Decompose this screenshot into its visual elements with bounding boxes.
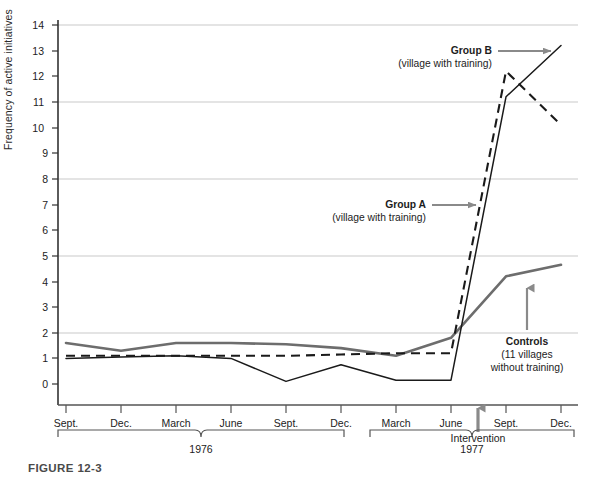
year-brace-1976 [58,430,344,437]
y-tick-label-11: 11 [22,96,44,108]
annotation-group-b-subtitle: (village with training) [398,58,492,69]
y-tick-label-3: 3 [26,301,48,313]
year-label-1976: 1976 [171,443,231,455]
x-tick-label-6: March [366,417,426,429]
x-tick-label-3: June [201,417,261,429]
annotation-controls-line1: (11 villages [501,349,552,360]
annotation-group-a-subtitle: (village with training) [332,212,426,223]
y-axis-title: Frequency of active initiatives [2,0,14,150]
chart-canvas [0,0,592,487]
y-tick-label-12: 12 [22,70,44,82]
gridlines [58,25,578,333]
x-tick-label-9: Dec. [531,417,591,429]
x-tick-marks [66,405,561,413]
annotation-group-a-title: Group A [385,199,426,210]
figure-container: Frequency of active initiatives 0 1 2 3 … [0,0,592,487]
x-tick-label-2: March [146,417,206,429]
annotation-group-a: Group A (village with training) [240,198,426,224]
y-tick-label-6: 6 [26,224,48,236]
y-tick-label-0: 0 [26,378,48,390]
annotation-group-b: Group B (village with training) [306,44,492,70]
y-tick-label-2: 2 [26,327,48,339]
figure-caption: FIGURE 12-3 [28,462,102,474]
y-tick-label-8: 8 [26,173,48,185]
x-tick-label-7: June [421,417,481,429]
y-tick-label-14: 14 [22,19,44,31]
y-tick-label-5: 5 [26,250,48,262]
year-label-1977: 1977 [442,443,502,455]
annotation-controls: Controls (11 villages without training) [466,335,588,374]
y-tick-label-9: 9 [26,147,48,159]
annotation-controls-line2: without training) [491,362,564,373]
annotation-controls-title: Controls [506,336,548,347]
y-tick-label-1: 1 [26,352,48,364]
x-tick-label-8: Sept. [476,417,536,429]
x-tick-label-0: Sept. [36,417,96,429]
annotation-group-b-title: Group B [451,45,492,56]
y-tick-label-7: 7 [26,199,48,211]
y-tick-marks [52,25,58,384]
y-tick-label-13: 13 [22,45,44,57]
x-tick-label-1: Dec. [91,417,151,429]
y-tick-label-4: 4 [26,276,48,288]
y-tick-label-10: 10 [22,122,44,134]
x-tick-label-5: Dec. [311,417,371,429]
x-tick-label-4: Sept. [256,417,316,429]
